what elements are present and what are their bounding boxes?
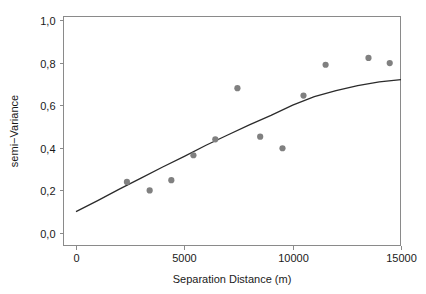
data-point (279, 145, 285, 151)
semivariogram-chart: 0,00,20,40,60,81,0 050001000015000 Separ… (0, 0, 426, 294)
fitted-model-curve (76, 80, 401, 212)
y-tick-label: 0,8 (40, 58, 55, 70)
y-tick-group (60, 21, 64, 234)
y-tick-label: 0,6 (40, 100, 55, 112)
plot-frame (64, 17, 401, 246)
x-tick-label: 0 (73, 252, 79, 264)
data-point (257, 134, 263, 140)
y-tick-label: 0,2 (40, 185, 55, 197)
x-tick-labels: 050001000015000 (73, 252, 416, 264)
data-point (365, 55, 371, 61)
y-tick-label: 0,4 (40, 143, 55, 155)
data-point (190, 152, 196, 158)
data-point (300, 93, 306, 99)
data-point (124, 179, 130, 185)
data-point (387, 60, 393, 66)
data-point (234, 85, 240, 91)
data-point (323, 62, 329, 68)
x-tick-label: 5000 (172, 252, 196, 264)
x-tick-group (77, 246, 402, 250)
y-axis: 0,00,20,40,60,81,0 (40, 15, 63, 240)
x-axis: 050001000015000 (73, 246, 416, 264)
x-axis-title: Separation Distance (m) (173, 273, 292, 285)
data-point (212, 136, 218, 142)
data-point (147, 187, 153, 193)
data-point-group (124, 55, 393, 194)
y-tick-label: 1,0 (40, 15, 55, 27)
y-tick-labels: 0,00,20,40,60,81,0 (40, 15, 55, 240)
y-axis-title: semi−Variance (8, 95, 20, 167)
x-tick-label: 10000 (278, 252, 309, 264)
data-point (168, 177, 174, 183)
y-tick-label: 0,0 (40, 228, 55, 240)
x-tick-label: 15000 (386, 252, 417, 264)
plot-svg: 0,00,20,40,60,81,0 050001000015000 Separ… (0, 0, 426, 294)
